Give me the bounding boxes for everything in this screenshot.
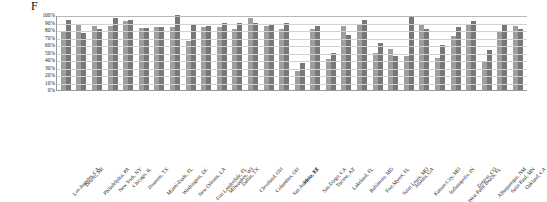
bar: [222, 23, 227, 90]
bar: [159, 27, 164, 90]
plot-area: [56, 16, 527, 91]
y-tick-label: 80%: [45, 28, 55, 33]
grid-line: [57, 24, 527, 25]
grid-line: [57, 61, 527, 62]
y-tick-label: 20%: [45, 73, 55, 78]
bar: [175, 15, 180, 90]
plot-area-wrapper: 100%90%80%70%60%50%40%30%20%10%0%: [29, 16, 527, 91]
y-tick-label: 100%: [42, 13, 55, 18]
bar: [269, 24, 274, 90]
bar: [191, 24, 196, 90]
grid-line: [57, 69, 527, 70]
y-tick-label: 90%: [45, 21, 55, 26]
bar: [206, 26, 211, 91]
y-tick-label: 50%: [45, 51, 55, 56]
y-tick-label: 60%: [45, 43, 55, 48]
grid-line: [57, 16, 527, 17]
bar: [144, 28, 149, 90]
bar: [346, 35, 351, 91]
grid-line: [57, 39, 527, 40]
grid-line: [57, 46, 527, 47]
bar: [253, 23, 258, 91]
grid-line: [57, 54, 527, 55]
grid-line: [57, 76, 527, 77]
y-tick-label: 70%: [45, 36, 55, 41]
bar: [502, 25, 507, 90]
bar: [237, 23, 242, 90]
x-axis-labels: Los Angeles, CADetroit, MIPhiladelphia, …: [56, 92, 527, 173]
bar: [284, 23, 289, 91]
y-tick-label: 10%: [45, 81, 55, 86]
grid-line: [57, 31, 527, 32]
bar: [456, 27, 461, 90]
figure-label: F: [31, 0, 38, 12]
grid-line: [57, 84, 527, 85]
bar: [315, 26, 320, 90]
y-axis: 100%90%80%70%60%50%40%30%20%10%0%: [29, 16, 56, 91]
y-tick-label: 40%: [45, 58, 55, 63]
x-tick-label: Mesa, AZ: [302, 166, 321, 185]
y-tick-label: 30%: [45, 66, 55, 71]
y-tick-label: 0%: [48, 88, 55, 93]
